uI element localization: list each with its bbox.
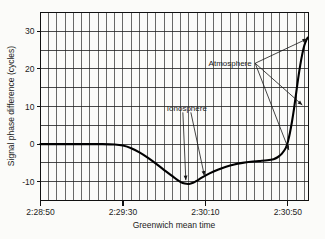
- y-tick-label: 0: [30, 139, 35, 149]
- y-axis-tick-labels: 3020100-10: [22, 26, 35, 186]
- y-tick-label: 20: [25, 64, 35, 74]
- x-axis-tickmarks: [41, 201, 288, 206]
- annotation-labels: IonosphereAtmosphere: [167, 59, 252, 113]
- y-axis-title: Signal phase difference (cycles): [6, 46, 16, 166]
- annotation-leader-line: [183, 112, 186, 180]
- x-tick-label: 2:30:50: [274, 207, 303, 217]
- y-tick-label: 10: [25, 102, 35, 112]
- chart-figure: 3020100-10 2:28:502:29:302:30:102:30:50 …: [0, 0, 325, 239]
- annotation-label: Atmosphere: [209, 59, 253, 68]
- x-tick-label: 2:29:30: [109, 207, 138, 217]
- chart-plot-area: 3020100-10 2:28:502:29:302:30:102:30:50 …: [0, 0, 325, 239]
- y-tick-label: 30: [25, 26, 35, 36]
- annotation-leader-line: [255, 63, 302, 105]
- y-tick-label: -10: [22, 177, 35, 187]
- x-axis-tick-labels: 2:28:502:29:302:30:102:30:50: [26, 207, 302, 217]
- annotation-arrowhead: [184, 176, 188, 181]
- x-tick-label: 2:28:50: [26, 207, 55, 217]
- x-tick-label: 2:30:10: [191, 207, 220, 217]
- x-axis-title: Greenwich mean time: [133, 220, 216, 230]
- annotation-label: Ionosphere: [167, 104, 208, 113]
